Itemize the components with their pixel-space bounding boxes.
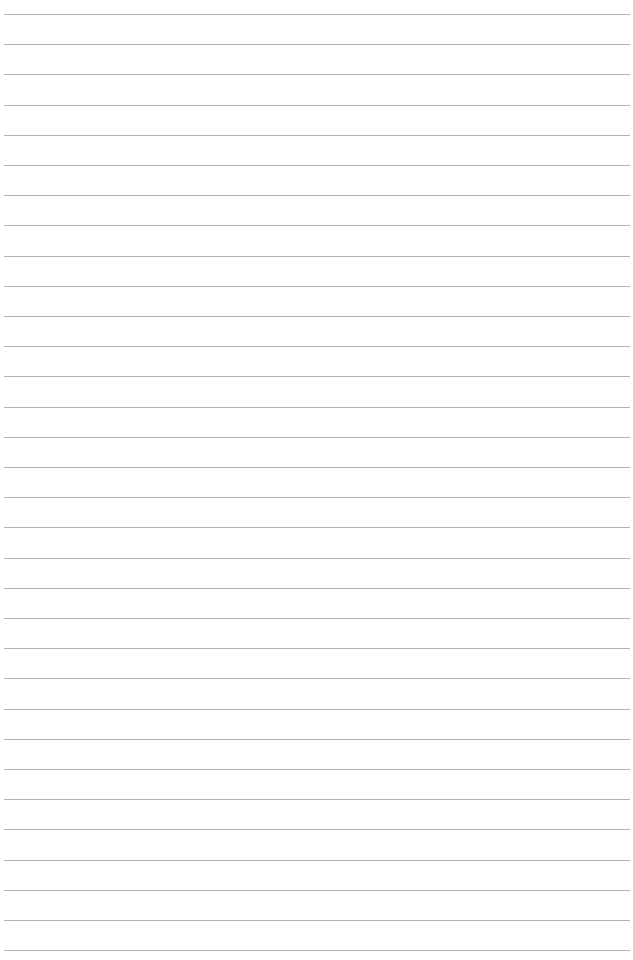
ruled-line (4, 588, 630, 589)
ruled-line (4, 225, 630, 226)
ruled-line (4, 799, 630, 800)
ruled-line (4, 286, 630, 287)
ruled-line (4, 497, 630, 498)
ruled-line (4, 860, 630, 861)
lined-paper-page (0, 0, 633, 960)
ruled-line (4, 44, 630, 45)
ruled-line (4, 135, 630, 136)
ruled-line (4, 890, 630, 891)
ruled-line (4, 527, 630, 528)
ruled-line (4, 316, 630, 317)
ruled-line (4, 558, 630, 559)
ruled-line (4, 256, 630, 257)
ruled-line (4, 437, 630, 438)
ruled-line (4, 195, 630, 196)
ruled-line (4, 618, 630, 619)
ruled-line (4, 407, 630, 408)
ruled-line (4, 829, 630, 830)
ruled-line (4, 165, 630, 166)
ruled-line (4, 709, 630, 710)
ruled-line (4, 678, 630, 679)
ruled-line (4, 14, 630, 15)
ruled-line (4, 950, 630, 951)
ruled-line (4, 769, 630, 770)
ruled-line (4, 74, 630, 75)
ruled-line (4, 467, 630, 468)
ruled-line (4, 739, 630, 740)
ruled-line (4, 920, 630, 921)
ruled-line (4, 346, 630, 347)
ruled-line (4, 376, 630, 377)
ruled-line (4, 648, 630, 649)
ruled-line (4, 105, 630, 106)
